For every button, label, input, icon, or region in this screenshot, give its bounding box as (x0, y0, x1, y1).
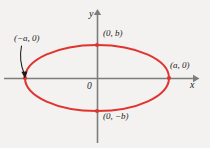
ellipse-figure-canvas (0, 0, 210, 148)
x-axis-label: x (190, 80, 194, 90)
vertex-marker-bottom (95, 109, 99, 113)
y-axis-arrowhead-icon (94, 9, 101, 15)
y-axis-label: y (89, 9, 93, 19)
callout-arrow-shaft (21, 46, 25, 74)
top-vertex-label: (0, b) (103, 29, 123, 38)
vertex-marker-top (95, 43, 99, 47)
origin-label: 0 (87, 82, 92, 92)
bottom-vertex-label: (0, −b) (103, 112, 129, 121)
vertex-marker-right (167, 76, 171, 80)
left-vertex-label: (−a, 0) (14, 34, 40, 43)
right-vertex-label: (a, 0) (170, 61, 190, 70)
ellipse-figure: y x 0 (0, b) (0, −b) (a, 0) (−a, 0) (0, 0, 210, 148)
